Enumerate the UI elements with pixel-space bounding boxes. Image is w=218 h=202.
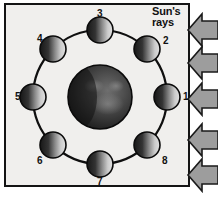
moon-label-6: 6 [37,156,42,166]
sun-ray-arrow-4 [188,124,218,156]
earth [63,65,132,129]
moon-6 [40,132,66,158]
moon-label-1: 1 [183,92,188,102]
moon-label-4: 4 [37,34,42,44]
moon-4 [40,36,66,62]
moon-7 [87,151,113,177]
moon-2 [134,36,160,62]
sun-rays-label-line2: rays [152,17,181,28]
earth-shadow-limb [63,66,97,128]
moon-label-5: 5 [15,92,20,102]
earth-surface-mottle [108,80,124,92]
moon-phases-diagram: Sun's rays 1 2 3 4 5 6 7 8 [0,0,218,202]
sun-rays-label: Sun's rays [152,6,181,28]
moon-label-2: 2 [163,36,168,46]
moon-label-3: 3 [97,9,102,19]
moon-label-8: 8 [162,156,167,166]
sun-ray-arrow-3 [188,83,218,115]
moon-1 [154,84,180,110]
sun-ray-arrow-1 [188,14,218,46]
moon-label-7: 7 [97,177,102,187]
moon-3 [87,17,113,43]
sun-ray-arrow-2 [188,47,218,79]
moon-8 [134,132,160,158]
moon-5 [20,84,46,110]
sun-ray-arrow-5 [188,159,218,191]
